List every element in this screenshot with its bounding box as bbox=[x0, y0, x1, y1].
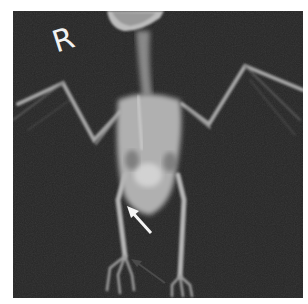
radiograph-image: R bbox=[13, 11, 303, 298]
